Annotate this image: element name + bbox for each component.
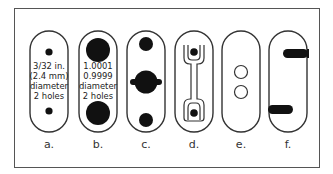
label-f: f. bbox=[268, 138, 308, 151]
label-c: c. bbox=[126, 138, 166, 151]
text-line: 2 holes bbox=[29, 91, 69, 101]
text-line: diameter bbox=[29, 81, 69, 91]
panel-e-outline bbox=[222, 31, 260, 132]
panel-b-text: 1.0001 0.9999 diameter 2 holes bbox=[78, 61, 118, 101]
panel-d-outline bbox=[175, 31, 213, 132]
text-line: diameter bbox=[78, 81, 118, 91]
panel-e-holes bbox=[235, 66, 248, 99]
text-line: 0.9999 bbox=[78, 71, 118, 81]
panel-c-holes bbox=[130, 37, 162, 127]
label-e: e. bbox=[221, 138, 261, 151]
text-line: 2 holes bbox=[78, 91, 118, 101]
label-b: b. bbox=[78, 138, 118, 151]
panel-f-slots bbox=[268, 49, 309, 114]
text-line: (2.4 mm) bbox=[29, 71, 69, 81]
label-a: a. bbox=[29, 138, 69, 151]
text-line: 3/32 in. bbox=[29, 61, 69, 71]
label-d: d. bbox=[174, 138, 214, 151]
text-line: 1.0001 bbox=[78, 61, 118, 71]
panel-f-outline bbox=[269, 31, 307, 132]
panel-a-text: 3/32 in. (2.4 mm) diameter 2 holes bbox=[29, 61, 69, 101]
